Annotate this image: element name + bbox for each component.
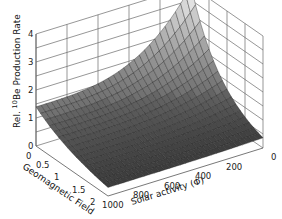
z-tick-label: 4 [28,29,33,39]
z-tick-label: 1 [28,113,33,123]
z-axis-label: Rel. 10Be Production Rate [11,14,22,128]
y-tick-label: 1000 [102,200,124,210]
z-tick-label: 3 [28,57,33,67]
x-tick-label: 0 [26,151,31,161]
z-tick-label: 0 [28,141,33,151]
z-tick-label: 2 [28,85,33,95]
surface-chart: 0123400.511.5210008006004002000 Rel. 10B… [0,0,282,219]
y-tick-label: 200 [226,162,242,172]
y-tick-label: 0 [271,152,276,162]
